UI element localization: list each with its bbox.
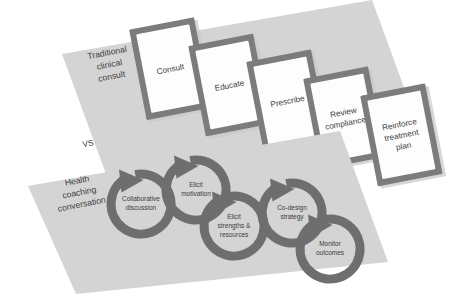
bottom-step-ring-1-label-line-1: discussion bbox=[126, 204, 157, 211]
bottom-step-ring-4-label-line-1: strategy bbox=[280, 213, 304, 221]
versus-label: VS bbox=[81, 137, 94, 149]
bottom-step-ring-1-label-line-0: Collaborative bbox=[122, 195, 160, 202]
bottom-step-ring-3-label-line-2: resources bbox=[220, 231, 249, 238]
bottom-step-ring-2-label-line-0: Elicit bbox=[189, 181, 203, 188]
bottom-step-ring-5-label-line-0: Monitor bbox=[319, 240, 342, 247]
top-step-card-5: Reinforce treatment plan bbox=[360, 83, 446, 189]
bottom-step-ring-2-label-line-1: motivation bbox=[181, 190, 211, 197]
versus-separator: VS bbox=[81, 137, 94, 149]
bottom-step-ring-5-label-line-1: outcomes bbox=[316, 249, 345, 256]
bottom-track-group: Health coaching conversation Collaborati… bbox=[28, 131, 388, 294]
comparison-diagram: Traditional clinical consult Consult Edu… bbox=[0, 0, 456, 294]
bottom-step-ring-3-label-line-1: strengths & bbox=[218, 222, 252, 230]
bottom-step-ring-4-label-line-0: Co-design bbox=[277, 204, 307, 212]
diagram-canvas: Traditional clinical consult Consult Edu… bbox=[0, 0, 456, 294]
bottom-step-ring-3-label-line-0: Elicit bbox=[227, 213, 241, 220]
